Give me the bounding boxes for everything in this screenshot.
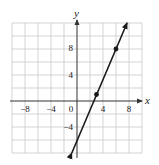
y-axis-label: y bbox=[73, 7, 79, 19]
data-point bbox=[114, 47, 119, 52]
y-tick-label: −4 bbox=[63, 122, 73, 132]
x-tick-label: 0 bbox=[69, 104, 74, 114]
x-tick-label: −8 bbox=[20, 104, 30, 114]
x-tick-label: 8 bbox=[127, 104, 132, 114]
data-point bbox=[94, 92, 99, 97]
x-tick-label: −4 bbox=[46, 104, 56, 114]
coordinate-plane: x y −8 −4 0 4 8 8 4 −4 bbox=[0, 0, 159, 165]
y-tick-label: 4 bbox=[69, 70, 74, 80]
x-axis-label: x bbox=[144, 94, 150, 106]
y-tick-label: 8 bbox=[69, 43, 74, 53]
x-tick-label: 4 bbox=[101, 104, 106, 114]
